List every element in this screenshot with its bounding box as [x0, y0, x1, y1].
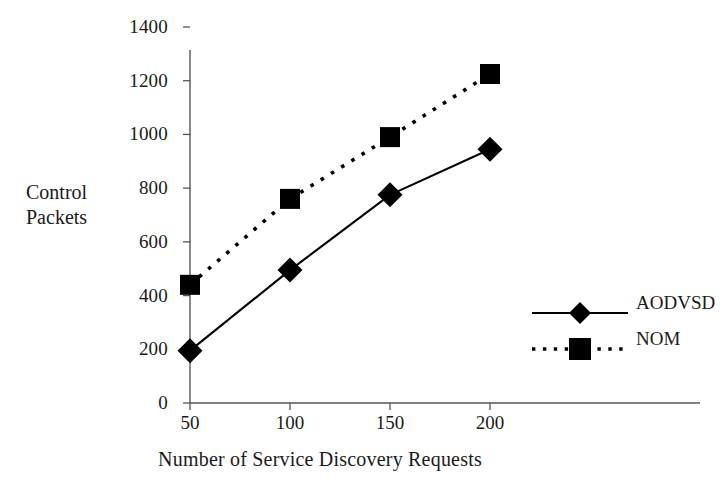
x-tick-label: 100 [260, 413, 320, 432]
x-tick-marks [190, 403, 490, 410]
x-axis-title: Number of Service Discovery Requests [105, 448, 535, 470]
y-tick-label: 200 [98, 339, 168, 358]
y-tick-label: 1200 [98, 71, 168, 90]
square-data-marker [280, 189, 300, 209]
solid-line-diamond-marker-icon [528, 296, 632, 330]
y-tick-label: 1000 [98, 124, 168, 143]
y-tick-label: 600 [98, 232, 168, 251]
x-tick-label: 50 [160, 413, 220, 432]
series-aodvsd [178, 137, 503, 363]
y-tick-label: 1400 [98, 17, 168, 36]
dotted-line-square-marker-icon [528, 332, 632, 366]
y-axis-title-line-1: Control [26, 180, 136, 205]
diamond-data-marker [278, 258, 303, 283]
x-tick-label: 150 [360, 413, 420, 432]
diamond-data-marker [178, 338, 203, 363]
square-data-marker [480, 64, 500, 84]
square-data-marker [380, 127, 400, 147]
y-axis-title-line-2: Packets [26, 205, 136, 230]
series-nom [180, 64, 500, 295]
legend-label-nom: NOM [636, 328, 680, 350]
chart-legend: AODVSD NOM [528, 296, 713, 382]
series-line [190, 149, 490, 350]
x-tick-label: 200 [460, 413, 520, 432]
legend-item-aodvsd: AODVSD [528, 296, 713, 330]
y-tick-label: 400 [98, 286, 168, 305]
square-data-marker [180, 275, 200, 295]
data-series-layer [178, 64, 503, 363]
series-line [190, 74, 490, 285]
control-packets-line-chart: 0200400600800100012001400 50100150200 Co… [0, 0, 725, 489]
diamond-data-marker [478, 137, 503, 162]
y-axis-title: Control Packets [26, 180, 136, 230]
legend-label-aodvsd: AODVSD [636, 292, 715, 314]
diamond-data-marker [378, 182, 403, 207]
legend-item-nom: NOM [528, 332, 713, 366]
y-tick-label: 0 [98, 393, 168, 412]
